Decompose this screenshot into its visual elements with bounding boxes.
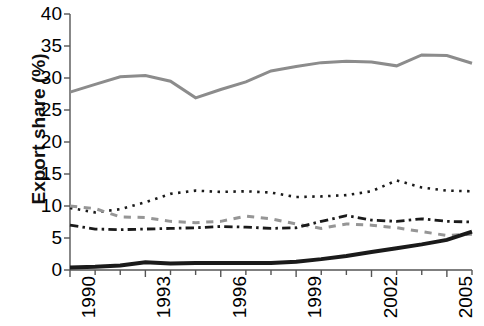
series-grey-dashed: [70, 206, 472, 235]
tick-marks: [64, 14, 472, 277]
series-grey-solid: [70, 55, 472, 98]
series-black-dotted: [70, 180, 472, 212]
axis-lines: [70, 14, 472, 270]
chart-figure: Export share (%) 0510152025303540 199019…: [0, 0, 484, 326]
plot-area: [0, 0, 484, 326]
series-black-solid: [70, 232, 472, 268]
data-series-group: [70, 55, 472, 267]
